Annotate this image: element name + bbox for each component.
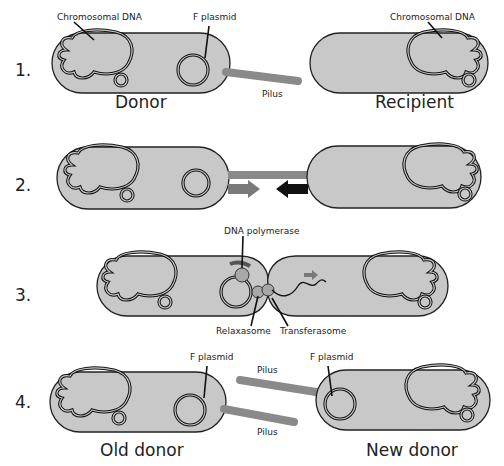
step-3: 3. DNA polymerase Relaxasome Transferaso…: [15, 226, 448, 336]
label-relaxasome: Relaxasome: [216, 326, 271, 336]
label-donor: Donor: [115, 92, 167, 112]
label-pilus: Pilus: [262, 89, 283, 99]
label-pilus: Pilus: [257, 427, 278, 437]
step-number: 4.: [15, 392, 31, 412]
donor-cell: [57, 147, 229, 209]
label-f-plasmid: F plasmid: [310, 352, 353, 362]
donor-cell: [52, 33, 230, 93]
step-2: 2.: [15, 144, 481, 209]
label-chromosomal-dna: Chromosomal DNA: [57, 12, 143, 22]
recipient-cell: [310, 33, 488, 93]
pilus: [228, 171, 308, 179]
leader-line: [242, 236, 243, 268]
step-number: 3.: [15, 285, 31, 305]
label-transferasome: Transferasome: [279, 326, 347, 336]
step-1: 1. Chromosomal DNA F plasmid Pilus Donor…: [15, 12, 488, 112]
label-pilus: Pilus: [257, 365, 278, 375]
arrow-left-icon: [276, 180, 308, 198]
label-new-donor: New donor: [366, 440, 458, 460]
pilus: [224, 409, 294, 422]
pilus: [226, 72, 298, 81]
step-number: 2.: [15, 175, 31, 195]
conjugation-diagram: 1. Chromosomal DNA F plasmid Pilus Donor…: [0, 0, 504, 466]
arrow-right-icon: [228, 180, 260, 198]
step-number: 1.: [15, 60, 31, 80]
label-f-plasmid: F plasmid: [190, 352, 233, 362]
recipient-cell: [307, 146, 481, 208]
label-f-plasmid: F plasmid: [193, 12, 236, 22]
label-dna-polymerase: DNA polymerase: [224, 226, 300, 236]
step-4: 4. F plasmid F plasmid Pilus Pilus Old d…: [15, 352, 490, 460]
label-chromosomal-dna: Chromosomal DNA: [390, 12, 476, 22]
label-old-donor: Old donor: [100, 440, 184, 460]
label-recipient: Recipient: [375, 92, 454, 112]
pilus: [240, 380, 316, 392]
